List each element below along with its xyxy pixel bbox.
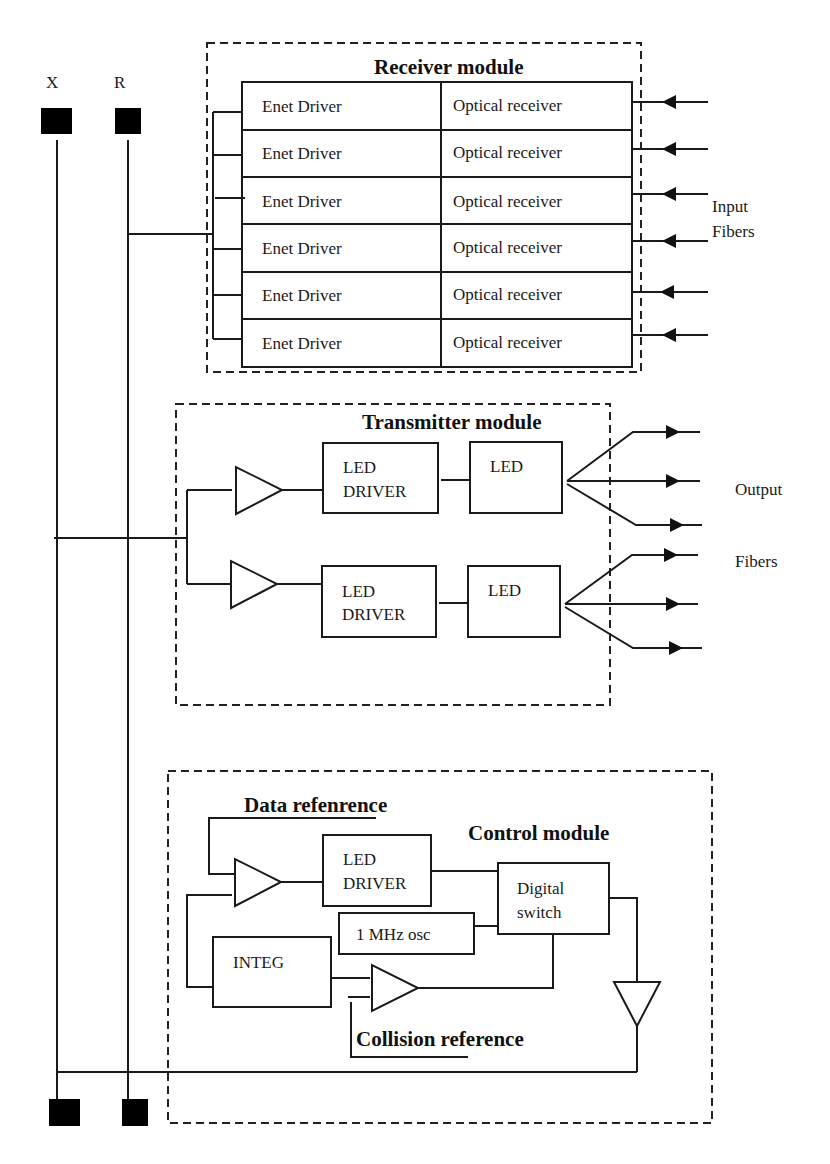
digital-switch-box	[498, 863, 609, 934]
output-fibers	[565, 548, 702, 655]
enet-driver-cell: Enet Driver	[262, 239, 342, 258]
arrow-left-icon	[660, 285, 674, 299]
arrow-right-icon	[669, 641, 683, 655]
collision-reference-label: Collision reference	[356, 1027, 524, 1051]
optical-receiver-cell: Optical receiver	[453, 285, 562, 304]
switch-output-wire	[609, 898, 637, 982]
arrow-left-icon	[662, 234, 676, 248]
arrow-left-icon	[662, 95, 676, 109]
control-module: Control module Data refenrence LED DRIVE…	[168, 771, 712, 1123]
arrow-left-icon	[662, 328, 676, 342]
input-fibers-label-line1: Input	[712, 197, 748, 216]
led-driver-box	[323, 835, 431, 906]
enet-driver-cell: Enet Driver	[262, 192, 342, 211]
output-buffer-triangle-icon	[614, 982, 660, 1026]
led-driver-box	[323, 443, 438, 513]
enet-driver-cell: Enet Driver	[262, 334, 342, 353]
svg-text:DRIVER: DRIVER	[343, 482, 407, 501]
svg-text:INTEG: INTEG	[233, 953, 284, 972]
svg-text:1 MHz osc: 1 MHz osc	[356, 925, 431, 944]
svg-text:switch: switch	[517, 903, 562, 922]
receiver-module-title: Receiver module	[374, 55, 523, 79]
svg-text:LED: LED	[488, 581, 521, 600]
optical-receiver-cell: Optical receiver	[453, 192, 562, 211]
arrow-left-icon	[662, 187, 676, 201]
arrow-left-icon	[662, 142, 676, 156]
input-fibers-label-line2: Fibers	[712, 222, 755, 241]
arrow-right-icon	[666, 597, 680, 611]
svg-text:DRIVER: DRIVER	[342, 605, 406, 624]
arrow-right-icon	[666, 474, 680, 488]
enet-driver-cell: Enet Driver	[262, 97, 342, 116]
amplifier-triangle-icon	[236, 467, 282, 514]
svg-text:LED: LED	[343, 850, 376, 869]
optical-receiver-cell: Optical receiver	[453, 143, 562, 162]
input-fibers	[632, 95, 708, 342]
optical-receiver-cell: Optical receiver	[453, 238, 562, 257]
bus-label-r: R	[114, 73, 126, 92]
svg-text:LED: LED	[490, 457, 523, 476]
led-box	[468, 566, 560, 637]
output-fibers-label-line2: Fibers	[735, 552, 778, 571]
transmitter-module: Transmitter module LED DRIVER LED LED DR…	[176, 404, 783, 705]
arrow-right-icon	[666, 425, 680, 439]
svg-text:LED: LED	[342, 582, 375, 601]
transmitter-module-title: Transmitter module	[362, 410, 541, 434]
network-interface-diagram: X R Receiver module Enet Driver	[0, 0, 830, 1164]
led-driver-box	[322, 566, 436, 637]
led-box	[470, 442, 562, 513]
enet-driver-cell: Enet Driver	[262, 286, 342, 305]
output-fibers-label-line1: Output	[735, 480, 783, 499]
r-bottom-pad-icon	[122, 1099, 148, 1126]
optical-receiver-cell: Optical receiver	[453, 96, 562, 115]
control-module-title: Control module	[468, 821, 609, 845]
output-fibers	[567, 425, 702, 532]
data-reference-label: Data refenrence	[244, 793, 387, 817]
comparator-triangle-icon	[235, 859, 281, 906]
arrow-right-icon	[670, 518, 684, 532]
comparator-triangle-icon	[372, 965, 418, 1011]
r-top-pad-icon	[115, 108, 141, 134]
bus-label-x: X	[46, 73, 58, 92]
svg-text:DRIVER: DRIVER	[343, 874, 407, 893]
x-bottom-pad-icon	[49, 1099, 80, 1126]
x-top-pad-icon	[41, 108, 72, 134]
svg-text:LED: LED	[343, 458, 376, 477]
receiver-module: Receiver module Enet Driver Optical rece…	[207, 43, 755, 372]
arrow-right-icon	[664, 548, 678, 562]
integrator-box	[213, 937, 331, 1007]
amplifier-triangle-icon	[231, 561, 277, 608]
enet-driver-cell: Enet Driver	[262, 144, 342, 163]
svg-text:Digital: Digital	[517, 879, 564, 898]
optical-receiver-cell: Optical receiver	[453, 333, 562, 352]
